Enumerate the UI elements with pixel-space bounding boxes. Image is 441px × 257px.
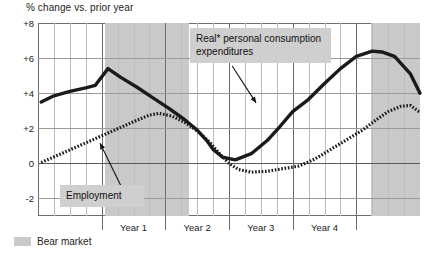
- x-tick-mark-8: [165, 216, 166, 230]
- pce-callout: Real* personal consumption expenditures: [190, 28, 331, 63]
- y-tick-label--2: -2: [0, 193, 34, 204]
- legend: Bear market: [14, 236, 91, 247]
- y-tick-label-+2: +2: [0, 123, 34, 134]
- x-tick-label-year-1: Year 1: [120, 222, 147, 233]
- employment-callout: Employment: [60, 185, 144, 207]
- x-tick-label-year-2: Year 2: [184, 222, 211, 233]
- legend-swatch-bear-market: [14, 237, 31, 246]
- y-tick-label-0: 0: [0, 158, 34, 169]
- legend-label-bear-market: Bear market: [37, 236, 91, 247]
- x-tick-mark-20: [356, 216, 357, 230]
- x-tick-mark-4: [102, 216, 103, 230]
- pce-callout-arrow-line: [232, 66, 256, 103]
- chart-figure: % change vs. prior year +8+6+4+20-2 Year…: [0, 0, 441, 257]
- y-tick-label-+8: +8: [0, 18, 34, 29]
- y-tick-label-+4: +4: [0, 88, 34, 99]
- y-tick-label-+6: +6: [0, 53, 34, 64]
- pce-callout-arrow-head: [251, 96, 256, 102]
- x-tick-label-year-3: Year 3: [247, 222, 274, 233]
- x-tick-mark-12: [229, 216, 230, 230]
- x-tick-mark-16: [293, 216, 294, 230]
- employment-callout-arrow-line: [100, 143, 122, 189]
- x-tick-label-year-4: Year 4: [311, 222, 338, 233]
- y-axis-title: % change vs. prior year: [26, 2, 133, 13]
